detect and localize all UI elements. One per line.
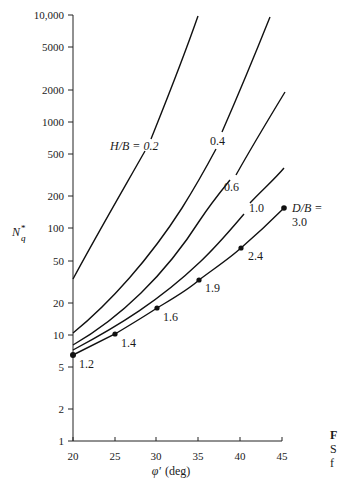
label-pt-2.4: 2.4	[248, 249, 263, 263]
label-db-3.0: 3.0	[292, 215, 307, 229]
y-tick-label: 2000	[42, 84, 65, 96]
curves	[73, 16, 285, 355]
label-pt-1.4: 1.4	[121, 336, 136, 350]
y-tick-labels: 10,000 5000 2000 1000 500 200 100 50 20 …	[34, 9, 65, 447]
y-tick-label: 10,000	[34, 9, 65, 21]
x-tick-label: 25	[110, 450, 122, 462]
marker-1.4	[112, 331, 117, 336]
x-tick-label: 35	[193, 450, 205, 462]
y-tick-label: 200	[48, 190, 65, 202]
marker-1.6	[154, 305, 159, 310]
x-ticks	[73, 437, 282, 441]
y-tick-label: 50	[53, 255, 65, 267]
y-axis-title-sup: *	[21, 223, 26, 233]
cropped-caption-fragment: F	[330, 428, 337, 442]
label-hb-0.6: 0.6	[224, 180, 239, 194]
marker-3.0	[281, 205, 287, 211]
y-axis-title: N	[11, 225, 21, 239]
y-tick-label: 5000	[42, 41, 65, 53]
label-pt-1.2: 1.2	[79, 357, 94, 371]
marker-2.4	[238, 245, 243, 250]
label-hb-1.0: 1.0	[249, 201, 264, 215]
y-tick-label: 1	[59, 435, 65, 447]
label-db: D/B =	[291, 201, 322, 215]
y-tick-label: 1000	[42, 116, 65, 128]
label-pt-1.9: 1.9	[205, 281, 220, 295]
curve-hb-0.4	[73, 17, 270, 333]
marker-1.9	[196, 277, 201, 282]
label-hb-0.2: H/B = 0.2	[109, 139, 158, 153]
x-tick-label: 20	[68, 450, 80, 462]
x-tick-labels: 20 25 30 35 40 45	[68, 450, 289, 462]
y-tick-label: 2	[59, 403, 65, 415]
y-tick-label: 10	[53, 329, 65, 341]
x-axis-title-symbol: φ′	[152, 464, 162, 478]
y-tick-label: 500	[48, 148, 65, 160]
y-tick-label: 100	[48, 222, 65, 234]
curve-hb-0.6	[73, 92, 285, 345]
y-tick-label: 20	[53, 297, 65, 309]
cropped-caption-fragment: S	[330, 442, 337, 456]
cropped-caption-fragment: f	[330, 456, 334, 470]
x-tick-label: 40	[235, 450, 247, 462]
marker-1.2	[70, 352, 76, 358]
x-tick-label: 45	[277, 450, 289, 462]
label-pt-1.6: 1.6	[163, 310, 178, 324]
label-hb-0.4: 0.4	[210, 134, 225, 148]
bearing-capacity-chart: 10,000 5000 2000 1000 500 200 100 50 20 …	[0, 0, 338, 486]
x-axis-title-unit: (deg)	[165, 464, 190, 478]
x-tick-label: 30	[151, 450, 163, 462]
y-ticks	[68, 15, 73, 441]
y-tick-label: 5	[59, 361, 65, 373]
y-axis-title-sub: q	[21, 233, 26, 243]
